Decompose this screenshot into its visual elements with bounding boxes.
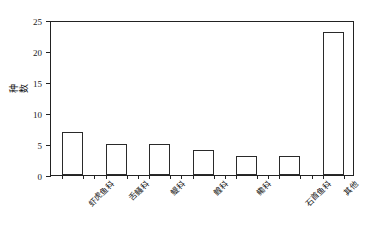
y-axis-title-text: 种数 xyxy=(9,81,29,95)
y-axis-tick-label: 5 xyxy=(38,142,43,151)
x-axis-tick xyxy=(181,175,182,179)
x-axis-category-label: 鳀科 xyxy=(169,180,186,197)
y-axis-tick: 25 xyxy=(46,21,51,22)
y-axis-tick-label: 0 xyxy=(38,173,43,182)
x-axis-category-label: 鳇科 xyxy=(213,180,230,197)
x-axis-tick xyxy=(236,175,237,179)
bar xyxy=(236,156,257,175)
bar-chart: 种数 0510152025 虾虎鱼科舌鳋科鳀科鳇科鳓科石首鱼科其他 xyxy=(0,0,369,241)
x-axis-tick xyxy=(94,175,95,179)
x-axis-category-label: 舌鳋科 xyxy=(128,180,151,203)
x-axis-tick xyxy=(149,175,150,179)
x-axis-category-label: 鳓科 xyxy=(256,180,273,197)
y-axis-tick-label: 15 xyxy=(33,80,42,89)
x-axis-tick xyxy=(214,175,215,179)
x-axis-category-label: 其他 xyxy=(343,180,360,197)
y-axis-tick: 20 xyxy=(46,52,51,53)
x-axis-tick xyxy=(127,175,128,179)
bar xyxy=(106,144,127,175)
y-axis-tick: 15 xyxy=(46,83,51,84)
bar xyxy=(323,32,344,175)
y-axis-tick: 5 xyxy=(46,145,51,146)
x-axis-tick xyxy=(193,175,194,179)
x-axis-tick xyxy=(300,175,301,179)
x-axis-tick xyxy=(170,175,171,179)
x-axis-tick xyxy=(138,175,139,179)
x-axis-tick xyxy=(62,175,63,179)
x-axis-category-label: 石首鱼科 xyxy=(304,180,332,208)
x-axis-tick xyxy=(83,175,84,179)
x-axis-tick xyxy=(225,175,226,179)
y-axis-tick: 0 xyxy=(46,176,51,177)
bar xyxy=(62,132,83,175)
plot-area: 0510152025 xyxy=(50,21,354,176)
y-axis-tick-label: 20 xyxy=(33,49,42,58)
x-axis-tick xyxy=(323,175,324,179)
bar xyxy=(193,150,214,175)
y-axis-tick-label: 25 xyxy=(33,18,42,27)
x-axis-tick xyxy=(279,175,280,179)
x-axis-tick xyxy=(106,175,107,179)
x-axis-tick xyxy=(257,175,258,179)
y-axis-tick: 10 xyxy=(46,114,51,115)
x-axis-tick xyxy=(312,175,313,179)
y-axis-tick-label: 10 xyxy=(33,111,42,120)
x-axis-tick xyxy=(344,175,345,179)
bar xyxy=(149,144,170,175)
bar xyxy=(279,156,300,175)
x-axis-tick xyxy=(268,175,269,179)
y-axis-title: 种数 xyxy=(12,78,26,98)
x-axis-category-label: 虾虎鱼科 xyxy=(87,180,115,208)
